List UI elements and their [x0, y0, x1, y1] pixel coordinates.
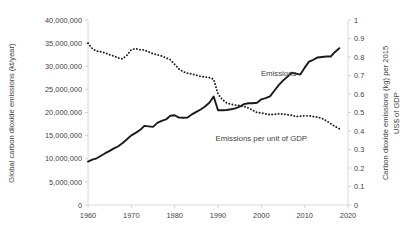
right-tick-label: 0.3: [354, 145, 364, 154]
x-tick-label: 2010: [296, 211, 312, 220]
series-label-intensity: Emissions per unit of GDP: [216, 134, 307, 143]
left-tick-label: 15,000,000: [45, 131, 82, 140]
right-tick-label: 0.4: [354, 127, 364, 136]
right-axis-title-line1: Carbon dioxide emissions (kg) per 2015: [381, 46, 390, 180]
x-tick-label: 1970: [123, 211, 139, 220]
series-label-emissions: Emissions: [261, 69, 297, 78]
right-tick-label: 0.2: [354, 164, 364, 173]
x-tick-label: 2000: [253, 211, 269, 220]
chart-container: 05,000,00010,000,00015,000,00020,000,000…: [0, 0, 414, 242]
x-tick-label: 1990: [210, 211, 226, 220]
x-tick-label: 1960: [80, 211, 96, 220]
right-axis-title-line2: US$ of GDP: [392, 92, 401, 134]
right-tick-label: 0.7: [354, 71, 364, 80]
right-tick-label: 0: [354, 201, 358, 210]
left-tick-label: 10,000,000: [45, 154, 82, 163]
left-tick-label: 5,000,000: [49, 178, 82, 187]
left-axis-ticks: 05,000,00010,000,00015,000,00020,000,000…: [45, 16, 88, 210]
x-tick-label: 2020: [340, 211, 356, 220]
co2-emissions-line-chart: 05,000,00010,000,00015,000,00020,000,000…: [0, 0, 414, 242]
right-tick-label: 0.1: [354, 182, 364, 191]
left-tick-label: 40,000,000: [45, 16, 82, 25]
right-tick-label: 1: [354, 16, 358, 25]
left-tick-label: 35,000,000: [45, 39, 82, 48]
left-tick-label: 30,000,000: [45, 62, 82, 71]
left-axis-title: Global carbon dioxide emissions (kt/year…: [7, 43, 16, 183]
right-tick-label: 0.6: [354, 90, 364, 99]
right-tick-label: 0.9: [354, 34, 364, 43]
right-tick-label: 0.8: [354, 53, 364, 62]
left-tick-label: 20,000,000: [45, 108, 82, 117]
x-tick-label: 1980: [166, 211, 182, 220]
chart-background: [0, 0, 414, 242]
left-tick-label: 0: [78, 201, 82, 210]
left-tick-label: 25,000,000: [45, 85, 82, 94]
right-tick-label: 0.5: [354, 108, 364, 117]
